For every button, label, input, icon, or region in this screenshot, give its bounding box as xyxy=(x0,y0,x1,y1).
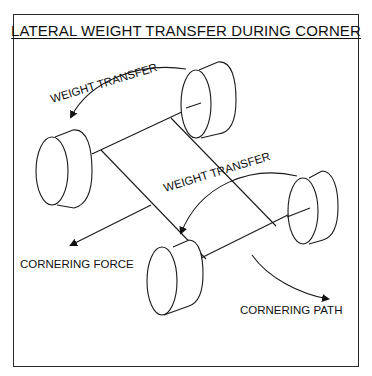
label-weight-transfer-top: WEIGHT TRANSFER xyxy=(49,61,158,105)
label-cornering-path: CORNERING PATH xyxy=(240,304,342,316)
left-rear-wheel xyxy=(147,240,203,315)
right-rear-wheel xyxy=(287,171,338,244)
right-front-wheel xyxy=(181,62,236,138)
label-cornering-force: CORNERING FORCE xyxy=(20,258,134,270)
label-weight-transfer-middle: WEIGHT TRANSFER xyxy=(162,150,271,194)
cornering-path-arrow xyxy=(252,255,328,299)
left-front-wheel xyxy=(36,130,92,208)
weight-transfer-diagram: WEIGHT TRANSFER WEIGHT TRANSFER CORNERIN… xyxy=(0,0,372,376)
cornering-force-arrow xyxy=(71,205,151,245)
